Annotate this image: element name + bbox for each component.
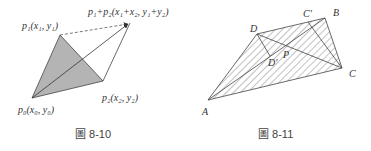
edge-p2-sum [103, 23, 130, 81]
shaded-triangle [32, 35, 103, 98]
caption-8-10: 圖 8-10 [75, 128, 111, 140]
caption-8-11: 圖 8-11 [258, 128, 293, 140]
label-A: A [201, 106, 209, 117]
label-D: D [249, 23, 258, 34]
label-B: B [333, 7, 339, 18]
label-p2: p₂(x₂, y₂) [101, 92, 139, 104]
figures-canvas: p₁(x₁, y₁) p₁+p₂(x₁+x₂, y₁+y₂) p₂(x₂, y₂… [0, 0, 371, 151]
dashed-edge [60, 24, 128, 35]
label-Cp: C′ [303, 8, 313, 19]
label-P: P [282, 49, 289, 60]
label-sum: p₁+p₂(x₁+x₂, y₁+y₂) [87, 6, 169, 18]
label-p0: p₀(x₀, y₀) [17, 104, 55, 116]
figure-8-10: p₁(x₁, y₁) p₁+p₂(x₁+x₂, y₁+y₂) p₂(x₂, y₂… [17, 6, 169, 140]
label-C: C [349, 68, 356, 79]
label-Dp: D′ [267, 57, 278, 68]
figure-8-11: D C′ B C D′ P A 圖 8-11 [201, 7, 356, 140]
label-p1: p₁(x₁, y₁) [21, 20, 59, 32]
